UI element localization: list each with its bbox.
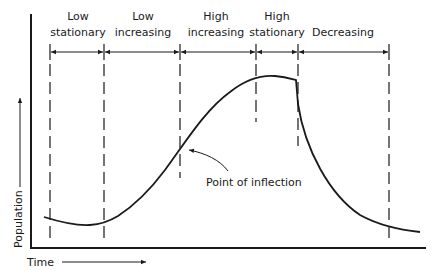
phase-1-label-line2: stationary bbox=[50, 26, 106, 39]
x-axis-label: Time bbox=[26, 256, 54, 269]
phase-boundary-lines bbox=[50, 64, 389, 238]
phase-5-label-line2: Decreasing bbox=[312, 26, 374, 39]
population-growth-diagram: Low stationary Low increasing High incre… bbox=[0, 0, 436, 271]
y-axis-label-group: Population bbox=[12, 98, 25, 248]
phase-3-label-line2: increasing bbox=[188, 26, 245, 39]
population-curve bbox=[44, 76, 420, 232]
phase-2-label-line1: Low bbox=[132, 10, 154, 23]
x-axis-label-group: Time bbox=[26, 256, 146, 269]
inflection-label: Point of inflection bbox=[206, 176, 302, 189]
phase-labels: Low stationary Low increasing High incre… bbox=[50, 10, 374, 39]
phase-4-label-line1: High bbox=[264, 10, 289, 23]
phase-2-label-line2: increasing bbox=[115, 26, 172, 39]
inflection-pointer-arrow bbox=[189, 150, 228, 171]
y-axis-label: Population bbox=[12, 190, 25, 248]
phase-1-label-line1: Low bbox=[67, 10, 89, 23]
phase-4-label-line2: stationary bbox=[249, 26, 305, 39]
phase-3-label-line1: High bbox=[203, 10, 228, 23]
inflection-annotation: Point of inflection bbox=[189, 150, 302, 189]
